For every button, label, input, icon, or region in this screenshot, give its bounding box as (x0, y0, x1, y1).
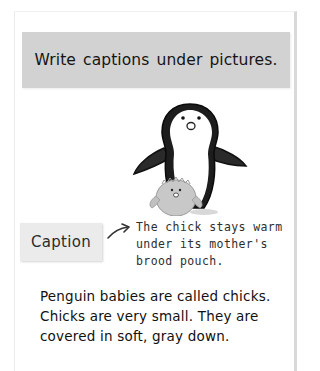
caption-label: Caption (31, 233, 91, 251)
caption-text: The chick stays warm under its mother's … (136, 219, 296, 270)
page-title: Write captions under pictures. (35, 51, 278, 69)
caption-line: under its mother's (136, 236, 296, 253)
title-banner: Write captions under pictures. (22, 32, 290, 88)
penguin-icon (120, 96, 260, 216)
arrow-right-icon (106, 223, 132, 241)
penguin-illustration (120, 96, 260, 216)
caption-label-box: Caption (20, 223, 102, 261)
body-line: covered in soft, gray down. (40, 326, 290, 346)
body-line: Penguin babies are called chicks. (40, 286, 290, 306)
body-paragraph: Penguin babies are called chicks. Chicks… (40, 286, 290, 346)
body-line: Chicks are very small. They are (40, 306, 290, 326)
caption-line: The chick stays warm (136, 219, 296, 236)
caption-line: brood pouch. (136, 253, 296, 270)
